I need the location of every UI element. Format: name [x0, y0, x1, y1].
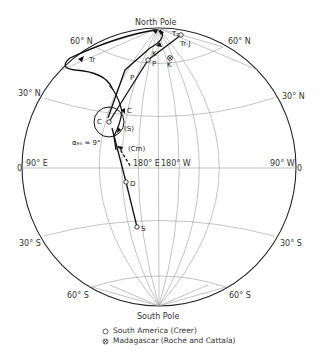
- open-circle-icon: [102, 328, 109, 335]
- label-c-path: C: [127, 107, 132, 115]
- point-c: [107, 120, 111, 124]
- lon-90e: 90° E: [26, 159, 48, 168]
- legend-label: South America (Creer): [113, 326, 197, 336]
- lat-60n-left: 60° N: [70, 37, 93, 46]
- apw-path-d-s: [126, 182, 137, 227]
- point-k-madagascar: [168, 56, 173, 61]
- label-cm: (Cm): [128, 145, 145, 153]
- lat-30s-left: 30° S: [19, 239, 41, 248]
- apw-path-k: [108, 30, 162, 118]
- lat-30n-right: 30° N: [282, 92, 305, 101]
- north-pole-label: North Pole: [135, 18, 177, 27]
- lat-60s-left: 60° S: [67, 291, 89, 300]
- lon-90w: 90° W: [270, 159, 295, 168]
- lon-0-left: 0: [17, 164, 22, 173]
- latitude-30n: [44, 98, 274, 117]
- label-tr: Tr: [88, 56, 95, 64]
- label-p-path: P: [130, 74, 134, 82]
- label-k-madagascar: K: [167, 61, 172, 69]
- lon-180w: 180° W: [161, 159, 191, 168]
- label-p-open: P: [152, 60, 156, 68]
- point-d: [124, 180, 128, 184]
- circled-x-icon: [102, 338, 109, 345]
- label-s-paren: (S): [124, 125, 134, 133]
- polar-wander-globe: North Pole South Pole 60° N 60° N 30° N …: [0, 0, 320, 356]
- lon-180e: 180° E: [133, 159, 160, 168]
- label-d: D: [130, 180, 135, 188]
- point-s: [135, 225, 139, 229]
- label-k-path: K: [152, 50, 157, 58]
- label-s: S: [141, 225, 146, 233]
- label-c-open: C: [97, 118, 102, 126]
- point-tr-j: [179, 33, 183, 37]
- lat-30n-left: 30° N: [18, 89, 41, 98]
- lat-60s-right: 60° S: [229, 291, 251, 300]
- legend-item-south-america: South America (Creer): [102, 326, 236, 336]
- legend-item-madagascar: Madagascar (Roche and Cattala): [102, 336, 236, 346]
- lat-60n-right: 60° N: [228, 37, 251, 46]
- lat-30s-right: 30° S: [280, 239, 302, 248]
- legend: South America (Creer) Madagascar (Roche …: [102, 326, 236, 346]
- point-p: [146, 58, 150, 62]
- label-tr-j: Tr-J: [179, 40, 191, 48]
- lon-0-right: 0: [297, 164, 302, 173]
- alpha95-label: α₉₅ = 9°: [72, 139, 101, 147]
- label-t2: T₂: [171, 30, 179, 38]
- latitude-60n: [95, 47, 223, 64]
- legend-label: Madagascar (Roche and Cattala): [113, 336, 236, 346]
- south-pole-label: South Pole: [137, 312, 179, 321]
